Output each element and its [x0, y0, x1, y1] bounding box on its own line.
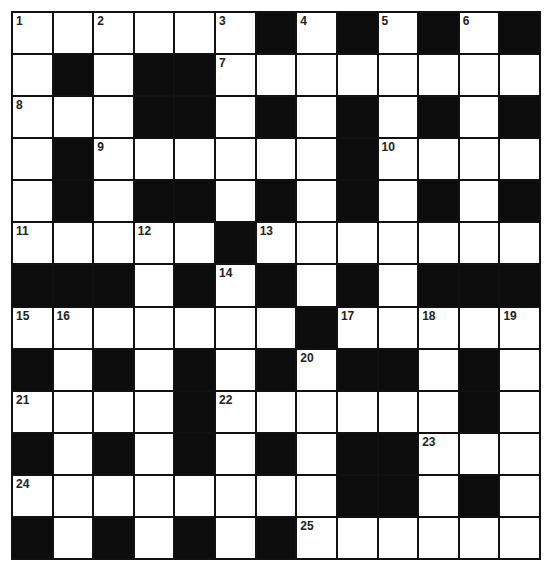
letter-cell[interactable] — [216, 434, 255, 474]
letter-cell[interactable]: 6 — [460, 13, 499, 53]
letter-cell[interactable] — [94, 476, 133, 516]
letter-cell[interactable] — [94, 392, 133, 432]
letter-cell[interactable]: 21 — [13, 392, 52, 432]
letter-cell[interactable] — [13, 139, 52, 179]
letter-cell[interactable] — [460, 518, 499, 558]
letter-cell[interactable]: 17 — [338, 308, 377, 348]
letter-cell[interactable]: 20 — [297, 350, 336, 390]
letter-cell[interactable] — [257, 392, 296, 432]
letter-cell[interactable]: 13 — [257, 223, 296, 263]
letter-cell[interactable] — [135, 434, 174, 474]
letter-cell[interactable] — [175, 13, 214, 53]
letter-cell[interactable] — [175, 308, 214, 348]
letter-cell[interactable] — [297, 476, 336, 516]
letter-cell[interactable]: 9 — [94, 139, 133, 179]
letter-cell[interactable] — [216, 350, 255, 390]
letter-cell[interactable] — [460, 308, 499, 348]
letter-cell[interactable] — [216, 181, 255, 221]
letter-cell[interactable] — [216, 308, 255, 348]
letter-cell[interactable] — [135, 139, 174, 179]
letter-cell[interactable] — [338, 55, 377, 95]
letter-cell[interactable] — [297, 181, 336, 221]
letter-cell[interactable]: 22 — [216, 392, 255, 432]
letter-cell[interactable] — [460, 223, 499, 263]
letter-cell[interactable] — [216, 518, 255, 558]
letter-cell[interactable] — [135, 265, 174, 305]
letter-cell[interactable] — [54, 223, 93, 263]
letter-cell[interactable] — [419, 392, 458, 432]
letter-cell[interactable] — [379, 97, 418, 137]
letter-cell[interactable] — [419, 350, 458, 390]
letter-cell[interactable] — [13, 181, 52, 221]
letter-cell[interactable]: 2 — [94, 13, 133, 53]
letter-cell[interactable]: 7 — [216, 55, 255, 95]
letter-cell[interactable] — [297, 55, 336, 95]
letter-cell[interactable] — [175, 223, 214, 263]
letter-cell[interactable] — [419, 55, 458, 95]
letter-cell[interactable]: 23 — [419, 434, 458, 474]
letter-cell[interactable] — [135, 308, 174, 348]
letter-cell[interactable] — [379, 181, 418, 221]
letter-cell[interactable] — [54, 350, 93, 390]
letter-cell[interactable] — [94, 97, 133, 137]
letter-cell[interactable] — [257, 139, 296, 179]
letter-cell[interactable] — [54, 434, 93, 474]
letter-cell[interactable] — [500, 392, 539, 432]
letter-cell[interactable] — [419, 476, 458, 516]
letter-cell[interactable] — [379, 392, 418, 432]
letter-cell[interactable] — [338, 518, 377, 558]
letter-cell[interactable] — [379, 55, 418, 95]
letter-cell[interactable] — [135, 392, 174, 432]
letter-cell[interactable] — [257, 476, 296, 516]
letter-cell[interactable]: 24 — [13, 476, 52, 516]
letter-cell[interactable] — [94, 308, 133, 348]
letter-cell[interactable] — [460, 181, 499, 221]
letter-cell[interactable] — [500, 139, 539, 179]
letter-cell[interactable]: 14 — [216, 265, 255, 305]
letter-cell[interactable] — [94, 55, 133, 95]
letter-cell[interactable] — [135, 518, 174, 558]
letter-cell[interactable] — [379, 518, 418, 558]
letter-cell[interactable]: 5 — [379, 13, 418, 53]
letter-cell[interactable] — [54, 476, 93, 516]
letter-cell[interactable] — [338, 223, 377, 263]
letter-cell[interactable] — [379, 308, 418, 348]
letter-cell[interactable] — [135, 476, 174, 516]
letter-cell[interactable]: 16 — [54, 308, 93, 348]
letter-cell[interactable] — [500, 350, 539, 390]
letter-cell[interactable] — [135, 350, 174, 390]
letter-cell[interactable] — [94, 223, 133, 263]
letter-cell[interactable] — [460, 434, 499, 474]
letter-cell[interactable] — [500, 518, 539, 558]
letter-cell[interactable] — [257, 55, 296, 95]
letter-cell[interactable] — [94, 181, 133, 221]
letter-cell[interactable]: 15 — [13, 308, 52, 348]
letter-cell[interactable] — [216, 139, 255, 179]
letter-cell[interactable] — [297, 97, 336, 137]
letter-cell[interactable] — [500, 223, 539, 263]
letter-cell[interactable] — [54, 518, 93, 558]
letter-cell[interactable] — [379, 223, 418, 263]
letter-cell[interactable]: 11 — [13, 223, 52, 263]
letter-cell[interactable] — [460, 55, 499, 95]
letter-cell[interactable] — [500, 55, 539, 95]
letter-cell[interactable] — [500, 434, 539, 474]
letter-cell[interactable] — [338, 392, 377, 432]
letter-cell[interactable] — [500, 476, 539, 516]
letter-cell[interactable] — [13, 55, 52, 95]
letter-cell[interactable] — [175, 139, 214, 179]
letter-cell[interactable] — [297, 434, 336, 474]
letter-cell[interactable]: 18 — [419, 308, 458, 348]
letter-cell[interactable]: 4 — [297, 13, 336, 53]
letter-cell[interactable]: 8 — [13, 97, 52, 137]
letter-cell[interactable] — [460, 97, 499, 137]
letter-cell[interactable] — [54, 13, 93, 53]
letter-cell[interactable] — [297, 265, 336, 305]
letter-cell[interactable]: 3 — [216, 13, 255, 53]
letter-cell[interactable] — [175, 476, 214, 516]
letter-cell[interactable] — [257, 308, 296, 348]
letter-cell[interactable]: 1 — [13, 13, 52, 53]
letter-cell[interactable] — [419, 223, 458, 263]
letter-cell[interactable] — [460, 139, 499, 179]
letter-cell[interactable]: 25 — [297, 518, 336, 558]
